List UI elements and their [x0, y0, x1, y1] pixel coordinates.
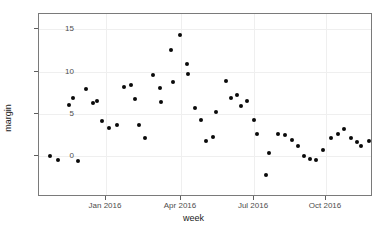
scatter-plot-figure: 151050 Jan 2016Apr 2016Jul 2016Oct 2016 … — [0, 0, 387, 235]
data-point — [308, 157, 312, 161]
data-point — [267, 151, 271, 155]
data-point — [283, 133, 287, 137]
gridline-vertical — [181, 14, 182, 195]
data-point — [252, 118, 256, 122]
y-axis-tick-label: 5 — [50, 108, 74, 117]
data-point — [129, 83, 133, 87]
plot-panel — [38, 13, 372, 196]
data-point — [133, 97, 137, 101]
data-point — [71, 96, 75, 100]
y-axis-tick — [34, 71, 38, 72]
y-axis-tick — [34, 155, 38, 156]
gridline-vertical — [254, 14, 255, 195]
data-point — [239, 104, 243, 108]
data-point — [204, 139, 208, 143]
gridline-vertical — [326, 14, 327, 195]
x-axis-tick-label: Jan 2016 — [89, 201, 122, 210]
y-axis-title: margin — [3, 88, 13, 148]
x-axis-tick-label: Apr 2016 — [164, 201, 196, 210]
data-point — [151, 73, 155, 77]
data-point — [100, 119, 104, 123]
data-point — [342, 127, 346, 131]
data-point — [290, 138, 294, 142]
x-axis-title: week — [0, 213, 387, 223]
data-point — [193, 106, 197, 110]
x-axis-tick-label: Jul 2016 — [238, 201, 268, 210]
y-axis-tick-label: 10 — [50, 66, 74, 75]
data-point — [171, 80, 175, 84]
gridline-vertical — [106, 14, 107, 195]
data-point — [329, 136, 333, 140]
x-axis-tick-label: Oct 2016 — [309, 201, 341, 210]
data-point — [355, 140, 359, 144]
data-point — [84, 87, 88, 91]
x-axis-tick — [180, 196, 181, 200]
data-point — [178, 33, 182, 37]
data-point — [321, 148, 325, 152]
x-axis-tick — [253, 196, 254, 200]
gridline-horizontal — [39, 72, 371, 73]
data-point — [276, 132, 280, 136]
data-point — [186, 72, 190, 76]
data-point — [314, 158, 318, 162]
data-point — [245, 99, 249, 103]
gridline-horizontal — [39, 114, 371, 115]
data-point — [367, 139, 371, 143]
data-point — [122, 85, 126, 89]
data-point — [169, 48, 173, 52]
data-point — [359, 144, 363, 148]
data-point — [296, 144, 300, 148]
data-point — [143, 136, 147, 140]
data-point — [185, 62, 189, 66]
data-point — [76, 159, 80, 163]
data-point — [264, 173, 268, 177]
data-point — [255, 132, 259, 136]
data-point — [302, 154, 306, 158]
data-point — [158, 86, 162, 90]
data-point — [107, 126, 111, 130]
data-point — [211, 135, 215, 139]
x-axis-tick — [325, 196, 326, 200]
data-point — [349, 136, 353, 140]
y-axis-tick — [34, 28, 38, 29]
data-point — [199, 118, 203, 122]
data-point — [95, 99, 99, 103]
data-point — [137, 123, 141, 127]
gridline-horizontal — [39, 29, 371, 30]
data-point — [115, 123, 119, 127]
y-axis-tick-label: 0 — [50, 151, 74, 160]
data-point — [229, 96, 233, 100]
data-point — [214, 110, 218, 114]
data-point — [67, 103, 71, 107]
y-axis-tick — [34, 113, 38, 114]
data-point — [336, 132, 340, 136]
data-point — [224, 79, 228, 83]
data-point — [235, 93, 239, 97]
x-axis-tick — [105, 196, 106, 200]
gridline-horizontal — [39, 156, 371, 157]
y-axis-tick-label: 15 — [50, 24, 74, 33]
data-point — [159, 100, 163, 104]
